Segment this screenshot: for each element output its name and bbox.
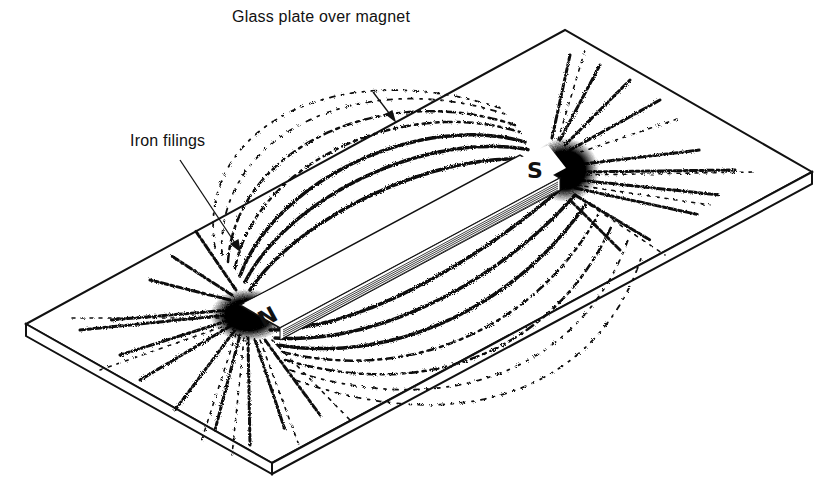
glass-plate-arrowhead-icon	[386, 111, 395, 121]
south-pole-label: S	[527, 158, 543, 183]
diagram-canvas: N S	[0, 0, 835, 496]
iron-filings-label: Iron filings	[130, 132, 205, 150]
glass-plate-label: Glass plate over magnet	[232, 8, 410, 26]
magnet-diagram: N S Glass plate over magnet Iron filings	[0, 0, 835, 496]
